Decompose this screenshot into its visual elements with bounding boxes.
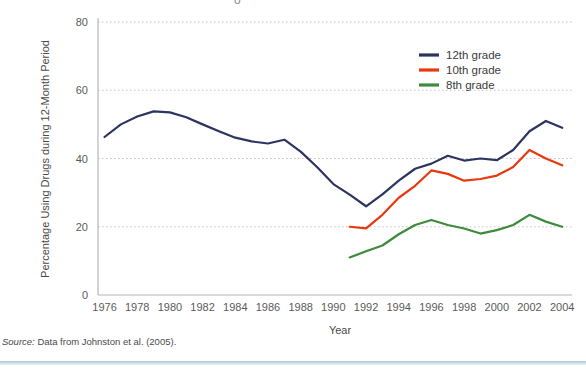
y-axis-title: Percentage Using Drugs during 12-Month P… <box>39 40 51 278</box>
x-tick-1988: 1988 <box>288 301 312 313</box>
x-tick-1996: 1996 <box>419 301 443 313</box>
x-tick-1986: 1986 <box>256 301 280 313</box>
legend-label-3: 8th grade <box>446 79 495 91</box>
x-tick-1994: 1994 <box>387 301 411 313</box>
chart-legend: 12th grade10th grade8th grade <box>419 49 501 91</box>
x-tick-1998: 1998 <box>452 301 476 313</box>
series-line-1 <box>105 111 563 206</box>
y-tick-40: 40 <box>76 153 88 165</box>
series-line-2 <box>350 150 562 228</box>
source-note: Source: Data from Johnston et al. (2005)… <box>2 336 176 347</box>
x-tick-1982: 1982 <box>190 301 214 313</box>
source-label: Source: <box>2 336 35 347</box>
x-tick-1976: 1976 <box>92 301 116 313</box>
bottom-divider <box>0 361 586 365</box>
x-tick-1978: 1978 <box>125 301 149 313</box>
x-tick-1984: 1984 <box>223 301 247 313</box>
figure-container: o 020406080 1976197819801982198419861988… <box>0 0 586 371</box>
x-tick-1980: 1980 <box>158 301 182 313</box>
x-tick-2002: 2002 <box>517 301 541 313</box>
x-tick-2000: 2000 <box>485 301 509 313</box>
legend-label-2: 10th grade <box>446 64 501 76</box>
y-tick-80: 80 <box>76 16 88 28</box>
x-tick-1990: 1990 <box>321 301 345 313</box>
series-line-3 <box>350 215 562 258</box>
x-tick-1992: 1992 <box>354 301 378 313</box>
source-text: Data from Johnston et al. (2005). <box>35 336 177 347</box>
x-axis-title: Year <box>329 324 352 336</box>
y-tick-0: 0 <box>82 289 88 301</box>
line-chart: 020406080 197619781980198219841986198819… <box>0 0 586 371</box>
y-tick-20: 20 <box>76 221 88 233</box>
x-tick-labels: 1976197819801982198419861988199019921994… <box>92 301 574 313</box>
x-tick-2004: 2004 <box>550 301 574 313</box>
legend-label-1: 12th grade <box>446 49 501 61</box>
y-tick-60: 60 <box>76 84 88 96</box>
y-tick-labels: 020406080 <box>76 16 88 301</box>
data-series <box>105 111 563 257</box>
